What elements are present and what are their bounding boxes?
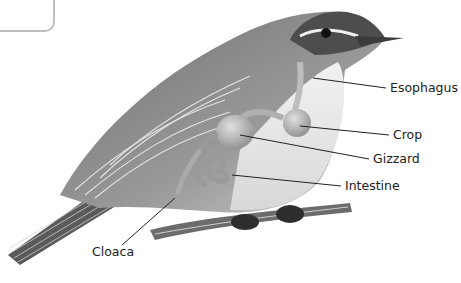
label-esophagus: Esophagus (390, 82, 458, 95)
label-crop: Crop (393, 129, 422, 142)
label-gizzard: Gizzard (373, 153, 420, 166)
label-cloaca: Cloaca (92, 246, 134, 259)
crop-organ (283, 109, 311, 137)
bird-eye (321, 28, 331, 38)
label-intestine: Intestine (345, 180, 400, 193)
bird-illustration (0, 0, 461, 283)
bird-digestive-diagram: Esophagus Crop Gizzard Intestine Cloaca (0, 0, 461, 283)
gizzard-organ (216, 115, 254, 149)
